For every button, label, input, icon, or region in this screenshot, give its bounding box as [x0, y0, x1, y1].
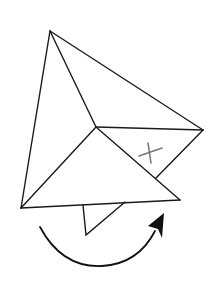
- edge-center-bottom-right: [96, 127, 180, 200]
- diagram-canvas: [0, 0, 222, 292]
- small-flap: [83, 202, 125, 235]
- edge-right-fold: [156, 130, 203, 178]
- edge-bottom: [21, 200, 180, 208]
- folded-shape-diagram: [0, 0, 222, 292]
- x-mark-icon: [139, 143, 162, 163]
- edge-center-right: [96, 127, 203, 130]
